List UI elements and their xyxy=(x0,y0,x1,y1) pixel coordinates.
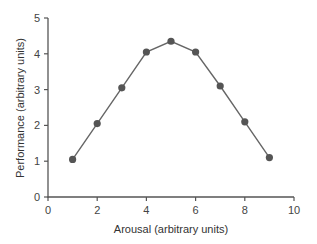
y-axis-ticks: 012345 xyxy=(34,12,48,203)
data-point-marker xyxy=(217,82,224,89)
data-series xyxy=(69,38,273,163)
x-tick-label: 10 xyxy=(288,204,300,216)
data-point-marker xyxy=(118,84,125,91)
x-tick-label: 2 xyxy=(94,204,100,216)
data-point-marker xyxy=(167,38,174,45)
line-chart: 012345 0246810 Arousal (arbitrary units)… xyxy=(0,0,317,244)
y-tick-label: 1 xyxy=(34,155,40,167)
x-tick-label: 6 xyxy=(193,204,199,216)
x-tick-label: 8 xyxy=(242,204,248,216)
data-point-marker xyxy=(69,156,76,163)
x-tick-label: 0 xyxy=(45,204,51,216)
x-tick-label: 4 xyxy=(143,204,149,216)
y-tick-label: 0 xyxy=(34,191,40,203)
data-point-marker xyxy=(94,120,101,127)
data-point-marker xyxy=(266,154,273,161)
data-point-marker xyxy=(143,48,150,55)
y-tick-label: 4 xyxy=(34,48,40,60)
data-point-marker xyxy=(241,118,248,125)
x-axis-title: Arousal (arbitrary units) xyxy=(114,223,228,235)
y-axis-title: Performance (arbitrary units) xyxy=(14,38,26,178)
series-line xyxy=(73,41,270,159)
data-point-marker xyxy=(192,48,199,55)
y-tick-label: 3 xyxy=(34,84,40,96)
y-tick-label: 5 xyxy=(34,12,40,24)
x-axis-ticks: 0246810 xyxy=(45,197,300,216)
y-tick-label: 2 xyxy=(34,119,40,131)
axes xyxy=(48,18,295,198)
